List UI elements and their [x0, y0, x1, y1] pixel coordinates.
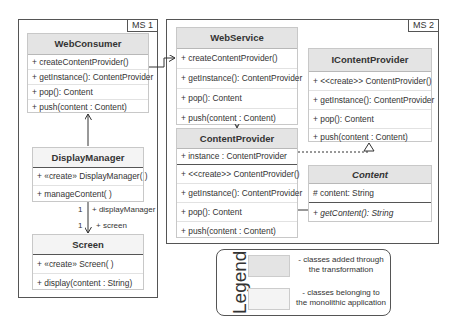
realization-contentprovider-icontentprovider [298, 151, 369, 152]
role-screen: + screen [96, 221, 127, 230]
role-displaymanager: + displayManager [92, 205, 155, 214]
legend: Legend - classes added through the trans… [216, 249, 391, 316]
legend-label-monolithic: - classes belonging to the monolithic ap… [296, 288, 386, 308]
legend-swatch-monolithic [248, 288, 290, 310]
multiplicity-bottom: 1 [78, 221, 82, 230]
legend-swatch-added [248, 255, 290, 277]
legend-label-added: - classes added through the transformati… [296, 255, 386, 275]
multiplicity-top: 1 [78, 205, 82, 214]
dependency-webconsumer-webservice [149, 58, 175, 67]
